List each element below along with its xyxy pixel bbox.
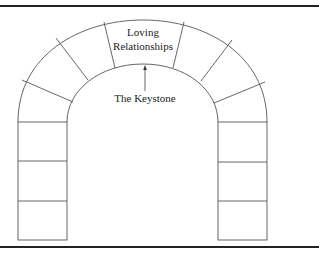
arch-diagram: Loving Relationships The Keystone xyxy=(0,0,319,259)
keystone-label-line1: Loving xyxy=(127,26,159,38)
keystone-label-line2: Relationships xyxy=(113,40,173,52)
arrow-label: The Keystone xyxy=(114,92,176,104)
arrow-head-icon xyxy=(143,65,147,70)
right-pillar xyxy=(218,122,267,240)
left-pillar xyxy=(18,122,67,240)
